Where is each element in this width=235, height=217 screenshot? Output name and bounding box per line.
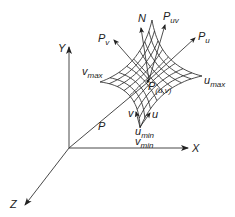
z-axis xyxy=(25,148,69,205)
p-v-label: Pv xyxy=(98,32,110,47)
y-axis-label: Y xyxy=(58,42,66,54)
u-direction-arrow xyxy=(140,113,150,127)
normal-label: N xyxy=(138,12,146,24)
v-max-label: vmax xyxy=(82,65,104,80)
p-u-label: Pu xyxy=(198,30,210,45)
u-direction-label: u xyxy=(152,108,158,120)
u-max-label: umax xyxy=(204,74,226,89)
p-uv-label: Puv xyxy=(163,10,180,25)
p-uv-vector xyxy=(149,25,165,80)
x-axis-label: X xyxy=(191,142,200,154)
z-axis-label: Z xyxy=(9,198,18,210)
surface-diagram: Y X Z P N Puv Pv Pu P(u,v) vmax umax umi… xyxy=(0,0,235,217)
diagram-canvas: Y X Z P N Puv Pv Pu P(u,v) vmax umax umi… xyxy=(0,0,235,217)
position-vector-label: P xyxy=(98,120,106,132)
v-direction-label: v xyxy=(128,107,135,119)
mesh-line xyxy=(109,31,154,84)
mesh-line xyxy=(149,31,191,79)
